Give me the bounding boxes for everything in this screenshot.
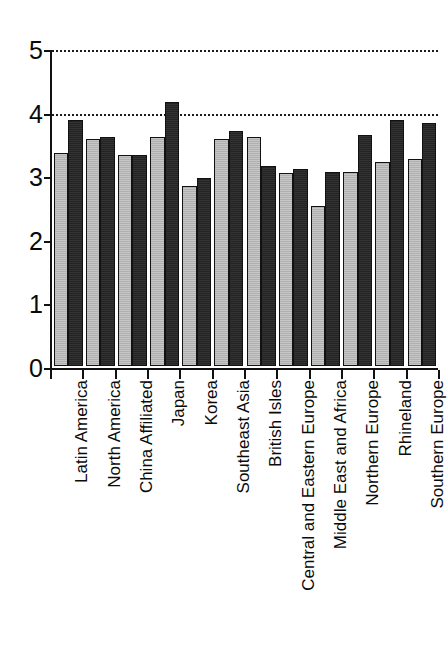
bar: [182, 186, 196, 366]
y-axis-tick-label: 1: [29, 292, 43, 317]
bar: [229, 131, 243, 366]
bar-group: [213, 50, 245, 366]
category-tick-mark: [341, 370, 343, 379]
bar-group: [245, 50, 277, 366]
bar-group: [84, 50, 116, 366]
bar-group: [149, 50, 181, 366]
bar-group: [181, 50, 213, 366]
category-tick-mark: [50, 370, 52, 379]
category-tick-marks: [50, 370, 438, 380]
plot-area: 012345: [50, 50, 438, 368]
category-tick-mark: [212, 370, 214, 379]
bar: [165, 102, 179, 366]
bar: [54, 153, 68, 366]
bar: [132, 155, 146, 366]
bar: [247, 137, 261, 366]
category-axis-label: China Affiliated: [138, 380, 155, 493]
bar: [68, 120, 82, 366]
category-tick-mark: [373, 370, 375, 379]
category-tick-mark: [438, 370, 440, 379]
y-axis-tick-mark: [44, 114, 50, 116]
bar: [197, 178, 211, 366]
category-axis-label: Southern Europe: [429, 380, 446, 509]
category-tick-mark: [276, 370, 278, 379]
category-axis-label: Latin America: [73, 380, 90, 483]
bar: [422, 123, 436, 366]
category-axis-label: Northern Europe: [364, 380, 381, 506]
bar: [118, 155, 132, 366]
category-axis-label: Korea: [203, 380, 220, 425]
y-axis-tick-label: 5: [29, 38, 43, 63]
bar: [375, 162, 389, 366]
bar-group: [277, 50, 309, 366]
bar: [325, 172, 339, 366]
bar-group: [342, 50, 374, 366]
category-tick-mark: [406, 370, 408, 379]
category-axis-label: Central and Eastern Europe: [300, 380, 317, 591]
bar: [390, 120, 404, 366]
bars-layer: [52, 50, 438, 366]
bar: [358, 135, 372, 366]
category-axis-label: Middle East and Africa: [332, 380, 349, 549]
category-tick-mark: [244, 370, 246, 379]
bar: [86, 139, 100, 366]
bar: [214, 139, 228, 366]
bar: [261, 166, 275, 366]
bar: [293, 169, 307, 366]
category-axis-label: Southeast Asia: [235, 380, 252, 493]
bar-group: [309, 50, 341, 366]
category-axis-label: Japan: [170, 380, 187, 426]
category-tick-mark: [147, 370, 149, 379]
category-axis-label: North America: [106, 380, 123, 488]
bar: [279, 173, 293, 366]
y-axis-tick-mark: [44, 241, 50, 243]
category-axis-labels: Latin AmericaNorth AmericaChina Affiliat…: [50, 380, 438, 645]
category-tick-mark: [179, 370, 181, 379]
category-tick-mark: [309, 370, 311, 379]
y-axis-tick-mark: [44, 304, 50, 306]
bar: [100, 137, 114, 366]
bar-group: [116, 50, 148, 366]
bar-group: [406, 50, 438, 366]
category-axis-label: British Isles: [267, 380, 284, 467]
y-axis-tick-label: 3: [29, 165, 43, 190]
bar-group: [374, 50, 406, 366]
y-axis-tick-mark: [44, 177, 50, 179]
bar: [408, 159, 422, 366]
y-axis-tick-label: 2: [29, 228, 43, 253]
category-tick-mark: [82, 370, 84, 379]
category-axis-label: Rhineland: [397, 380, 414, 457]
category-tick-mark: [115, 370, 117, 379]
y-axis-tick-mark: [44, 50, 50, 52]
bar: [150, 137, 164, 366]
y-axis-tick-label: 0: [29, 356, 43, 381]
bar-group: [52, 50, 84, 366]
bar: [311, 206, 325, 366]
bar: [343, 172, 357, 366]
y-axis-tick-label: 4: [29, 101, 43, 126]
